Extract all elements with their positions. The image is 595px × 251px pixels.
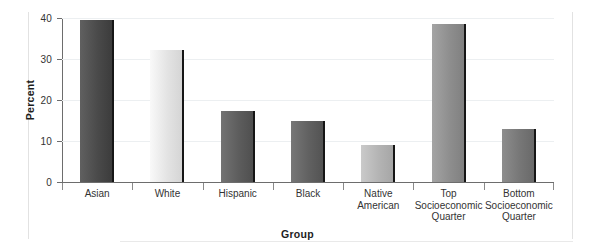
bar [361,145,395,182]
bar [432,24,466,182]
x-tick-label: Native American [343,188,413,211]
bar [80,20,114,182]
y-tick-10 [57,141,62,142]
gridline-20 [62,100,554,101]
bar [150,50,184,182]
frame-right-rule [572,12,573,239]
x-tick-label: Asian [62,188,132,200]
bar [221,111,255,182]
x-tick-label: Black [273,188,343,200]
gridline-40 [62,18,554,19]
frame-left-rule [28,12,29,239]
y-tick-40 [57,18,62,19]
plot-area [62,18,554,182]
y-tick-label-0: 0 [36,177,52,188]
y-tick-label-20: 20 [36,95,52,106]
bar-chart: Percent AsianWhiteHispanicBlackNative Am… [0,0,595,251]
x-tick-label: Top Socioeconomic Quarter [413,188,483,223]
y-tick-label-30: 30 [36,54,52,65]
x-tick-label: Bottom Socioeconomic Quarter [484,188,554,223]
x-axis-title: Group [0,228,595,240]
frame-bottom-rule [120,241,573,242]
y-tick-20 [57,100,62,101]
x-tick-label: Hispanic [203,188,273,200]
y-tick-label-40: 40 [36,13,52,24]
bar [502,129,536,182]
y-tick-label-10: 10 [36,136,52,147]
gridline-30 [62,59,554,60]
x-tick-label: White [132,188,202,200]
bar [291,121,325,183]
y-tick-30 [57,59,62,60]
y-axis-title: Percent [24,80,36,121]
y-tick-0 [57,182,62,183]
